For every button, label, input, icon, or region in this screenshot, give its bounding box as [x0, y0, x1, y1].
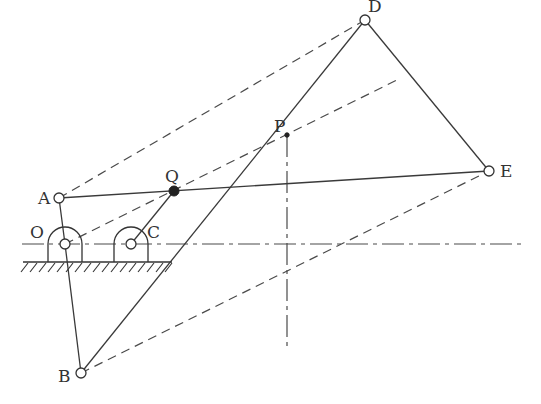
dashed-line-b-e — [81, 171, 489, 373]
link-d-e — [365, 20, 489, 171]
joint-q — [169, 186, 179, 196]
label-q: Q — [165, 166, 179, 186]
ground-fixed-frame — [21, 262, 172, 272]
joint-a — [54, 193, 64, 203]
dashed-line-a-d — [59, 20, 365, 198]
point-p — [285, 133, 289, 137]
label-c: C — [147, 222, 160, 242]
joint-b — [76, 368, 86, 378]
label-a: A — [37, 188, 51, 208]
joint-o — [60, 239, 70, 249]
link-b-d — [81, 20, 365, 373]
link-o-a-b — [59, 198, 81, 373]
joint-c — [126, 239, 136, 249]
link-a-e — [59, 171, 489, 198]
label-e: E — [500, 161, 512, 181]
label-d: D — [368, 0, 382, 16]
joint-e — [484, 166, 494, 176]
dashed-line-o-q-extended — [65, 80, 397, 244]
linkage-diagram: A O C Q B D E P — [0, 0, 541, 404]
joint-d — [360, 15, 370, 25]
label-b: B — [58, 366, 71, 386]
label-o: O — [30, 222, 44, 242]
label-p: P — [274, 116, 285, 136]
